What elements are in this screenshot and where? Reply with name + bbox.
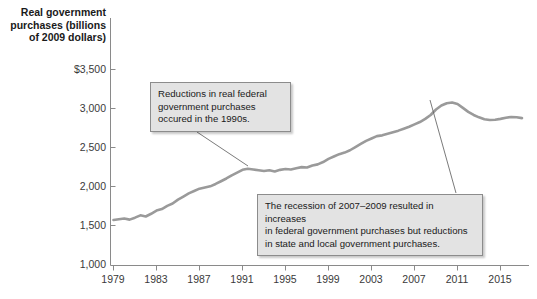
callout-leader-line-recession	[430, 100, 456, 193]
x-axis-ticks	[114, 266, 501, 271]
callout-leader-line-1990s	[197, 132, 248, 166]
chart-figure: Real government purchases (billions of 2…	[0, 0, 537, 299]
annotation-callout-recession: The recession of 2007–2009 resulted in i…	[257, 194, 483, 256]
annotation-callout-1990s: Reductions in real federal government pu…	[150, 82, 291, 132]
y-axis-ticks	[111, 70, 116, 226]
